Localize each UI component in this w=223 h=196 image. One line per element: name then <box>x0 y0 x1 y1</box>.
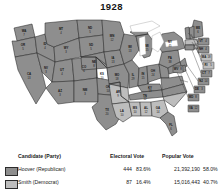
lake-superior <box>130 21 160 32</box>
svg-text:TX: TX <box>105 108 109 112</box>
table-row[interactable]: Hoover (Republican) 444 83.6% 21,392,190… <box>0 166 223 178</box>
svg-text:14: 14 <box>157 110 160 114</box>
header-popular-vote: Popular Vote <box>162 153 222 159</box>
svg-text:38: 38 <box>169 60 172 64</box>
svg-text:13: 13 <box>149 89 152 93</box>
svg-text:15: 15 <box>142 76 145 80</box>
svg-text:IN: IN <box>142 72 145 76</box>
svg-text:AL: AL <box>144 106 148 110</box>
svg-text:NV: NV <box>44 66 48 70</box>
svg-text:12: 12 <box>195 106 198 110</box>
svg-text:DE: DE <box>195 87 199 91</box>
svg-text:20: 20 <box>106 112 109 116</box>
header-electoral-vote: Electoral Vote <box>110 153 162 159</box>
svg-text:MI: MI <box>145 44 148 48</box>
candidate-name: Hoover (Republican) <box>18 166 110 172</box>
header-candidate: Candidate (Party) <box>18 153 110 159</box>
svg-text:18: 18 <box>208 55 211 59</box>
svg-text:NJ: NJ <box>199 79 203 83</box>
popular-votes: 15,016,443 <box>162 179 200 185</box>
svg-text:MT: MT <box>59 27 63 31</box>
svg-text:13: 13 <box>28 76 31 80</box>
us-electoral-map: WA7 OR5 CA13 ID4 NV3 MT4 WY3 UT4 AZ3 CO6… <box>2 12 221 152</box>
svg-text:UT: UT <box>60 68 64 72</box>
svg-text:13: 13 <box>112 60 115 64</box>
svg-text:ND: ND <box>88 26 92 30</box>
svg-text:KS: KS <box>100 72 104 76</box>
svg-text:WY: WY <box>64 46 69 50</box>
svg-text:CT: CT <box>202 71 206 75</box>
svg-text:12: 12 <box>145 110 148 114</box>
candidate-name: Smith (Democrat) <box>18 179 110 185</box>
svg-text:18: 18 <box>116 77 119 81</box>
electoral-votes: 444 <box>110 166 132 172</box>
svg-text:FL: FL <box>169 123 173 127</box>
state-ct[interactable] <box>185 45 194 50</box>
svg-text:NM: NM <box>83 88 88 92</box>
smith-swatch <box>5 180 18 189</box>
svg-text:NY: NY <box>168 40 172 44</box>
svg-text:10: 10 <box>134 110 137 114</box>
svg-text:OH: OH <box>151 69 155 73</box>
svg-text:13: 13 <box>129 49 132 53</box>
popular-pct: 40.7% <box>203 179 223 185</box>
svg-text:12: 12 <box>111 38 114 42</box>
electoral-votes: 87 <box>110 179 132 185</box>
results-legend-table: Candidate (Party) Electoral Vote Popular… <box>0 153 223 196</box>
svg-text:24: 24 <box>152 73 155 77</box>
svg-text:SD: SD <box>89 43 93 47</box>
table-row[interactable]: Smith (Democrat) 87 16.4% 15,016,443 40.… <box>0 179 223 191</box>
svg-text:10: 10 <box>121 113 124 117</box>
svg-text:29: 29 <box>132 77 135 81</box>
svg-text:45: 45 <box>169 44 172 48</box>
svg-text:10: 10 <box>101 76 104 80</box>
svg-text:IL: IL <box>132 73 135 77</box>
electoral-pct: 83.6% <box>136 166 162 172</box>
electoral-pct: 16.4% <box>136 179 162 185</box>
svg-text:VT: VT <box>199 39 203 43</box>
svg-text:NE: NE <box>92 60 96 64</box>
svg-text:WV: WV <box>174 67 179 71</box>
svg-text:ME: ME <box>196 26 200 30</box>
svg-text:14: 14 <box>205 79 208 83</box>
state-ma[interactable] <box>185 39 198 45</box>
svg-text:12: 12 <box>144 97 147 101</box>
map-svg: WA7 OR5 CA13 ID4 NV3 MT4 WY3 UT4 AZ3 CO6… <box>2 12 221 152</box>
election-map-figure: 1928 <box>0 0 223 196</box>
state-vt[interactable] <box>185 27 190 39</box>
popular-votes: 21,392,190 <box>162 166 200 172</box>
popular-pct: 58.0% <box>203 166 223 172</box>
svg-text:CO: CO <box>82 65 87 69</box>
svg-text:10: 10 <box>107 89 110 93</box>
svg-text:15: 15 <box>146 48 149 52</box>
svg-text:AZ: AZ <box>58 89 62 93</box>
svg-text:ID: ID <box>44 42 47 46</box>
svg-text:MD: MD <box>189 95 194 99</box>
hoover-swatch <box>5 167 18 176</box>
svg-text:NH: NH <box>199 47 203 51</box>
svg-text:WI: WI <box>128 45 132 49</box>
svg-text:MO: MO <box>115 73 120 77</box>
svg-text:RI: RI <box>205 63 208 67</box>
table-header-row: Candidate (Party) Electoral Vote Popular… <box>0 153 223 165</box>
svg-text:MN: MN <box>110 34 115 38</box>
page-title: 1928 <box>0 1 223 12</box>
svg-text:MS: MS <box>133 106 137 110</box>
